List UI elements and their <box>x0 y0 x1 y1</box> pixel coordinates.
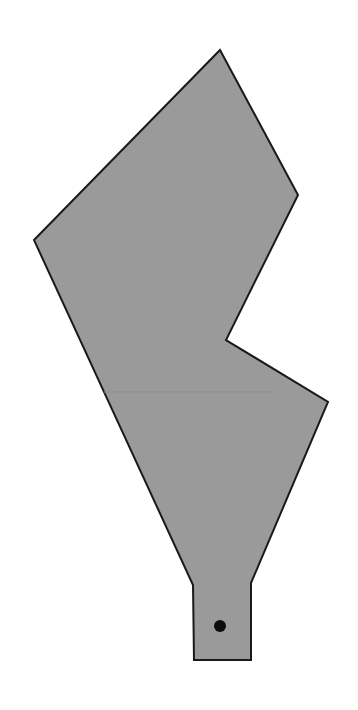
shape-canvas <box>0 0 358 710</box>
hole-dot[interactable] <box>214 620 226 632</box>
shape-svg <box>0 0 358 710</box>
